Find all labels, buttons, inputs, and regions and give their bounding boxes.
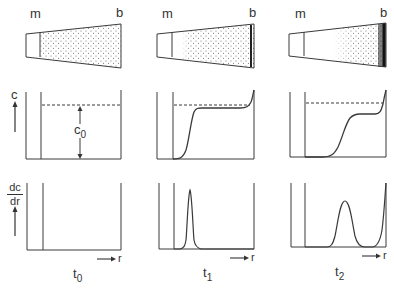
cell-t1 [157, 24, 254, 68]
figure-canvas [0, 0, 394, 288]
r-label-t0: r [118, 253, 122, 264]
r-arrow-t1 [230, 256, 249, 261]
time-label-t1-sub: 1 [207, 272, 213, 283]
conc-plot-t1 [157, 90, 254, 159]
r-label-t1: r [251, 252, 255, 263]
bottom-label-t1: b [249, 6, 256, 19]
r-label-t2: r [383, 250, 387, 261]
gradient-plot-t1 [159, 183, 254, 249]
time-label-t2-sub: 2 [339, 271, 345, 282]
cell-t2 [289, 23, 386, 67]
meniscus-label-t2: m [295, 7, 306, 20]
time-label-t0-sub: 0 [77, 273, 83, 284]
r-arrow-t0 [97, 257, 116, 262]
bottom-label-t2: b [380, 6, 387, 19]
meniscus-label-t1: m [162, 7, 173, 20]
gradient-axis-label: dc dr [7, 182, 23, 207]
concentration-axis-label: c [11, 88, 18, 101]
conc-plot-t2 [290, 90, 386, 157]
gradient-plot-t0 [27, 183, 121, 250]
meniscus-label-t0: m [30, 7, 41, 20]
time-label-t2: t2 [335, 265, 344, 278]
cell-t0 [26, 24, 121, 68]
c0-label: c0 [74, 123, 86, 136]
c0-label-main: c [74, 122, 81, 137]
conc-axis-arrow [13, 101, 18, 132]
r-arrow-t2 [362, 254, 381, 259]
gradient-numerator: dc [7, 182, 23, 195]
time-label-t0: t0 [73, 267, 82, 280]
bottom-label-t0: b [116, 6, 123, 19]
gradient-axis-arrow [13, 206, 18, 236]
c0-label-sub: 0 [81, 129, 87, 140]
time-label-t1: t1 [203, 266, 212, 279]
gradient-plot-t2 [291, 183, 386, 247]
gradient-denominator: dr [7, 195, 23, 207]
